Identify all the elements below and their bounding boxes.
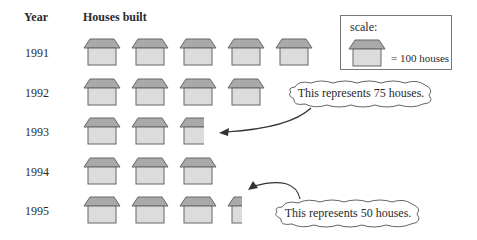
arrowhead-icon — [219, 128, 229, 136]
callout-arrows — [0, 0, 477, 240]
arrow-75 — [226, 108, 311, 132]
arrow-50 — [254, 183, 300, 199]
